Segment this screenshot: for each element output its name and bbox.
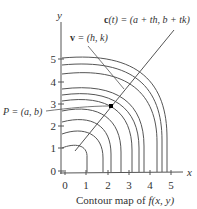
svg-text:1: 1 [51, 142, 57, 154]
y-tick-labels: 5 4 3 2 1 0 [51, 53, 57, 177]
contour-6 [62, 94, 139, 172]
contour-4 [62, 109, 121, 172]
svg-text:1: 1 [83, 179, 89, 191]
contour-1 [62, 145, 87, 172]
contour-diagram: 5 4 3 2 1 0 0 1 2 3 4 5 y x c(t) = (a + … [0, 0, 197, 209]
svg-text:4: 4 [147, 179, 153, 191]
line-c-t-label: c(t) = (a + th, b + tk) [104, 14, 190, 26]
svg-text:5: 5 [51, 53, 57, 65]
contour-9 [62, 64, 162, 172]
svg-text:0: 0 [62, 179, 68, 191]
point-p-label: P = (a, b) [2, 106, 43, 118]
contour-lines [62, 57, 167, 172]
svg-text:0: 0 [51, 165, 57, 177]
svg-text:3: 3 [51, 98, 57, 110]
vector-v-leader [88, 46, 124, 89]
point-p [109, 104, 113, 108]
svg-text:3: 3 [126, 179, 132, 191]
svg-text:5: 5 [168, 179, 174, 191]
x-tick-labels: 0 1 2 3 4 5 [62, 179, 174, 191]
svg-text:4: 4 [51, 76, 57, 88]
figure-caption: Contour map of f(x, y) [76, 194, 174, 207]
x-axis [60, 172, 183, 173]
y-axis-label: y [56, 9, 62, 21]
svg-text:2: 2 [105, 179, 111, 191]
contour-10 [62, 57, 167, 172]
svg-text:2: 2 [51, 120, 57, 132]
contour-2 [62, 131, 103, 172]
vector-v-label: v = (h, k) [70, 32, 109, 44]
x-axis-label: x [186, 166, 192, 178]
